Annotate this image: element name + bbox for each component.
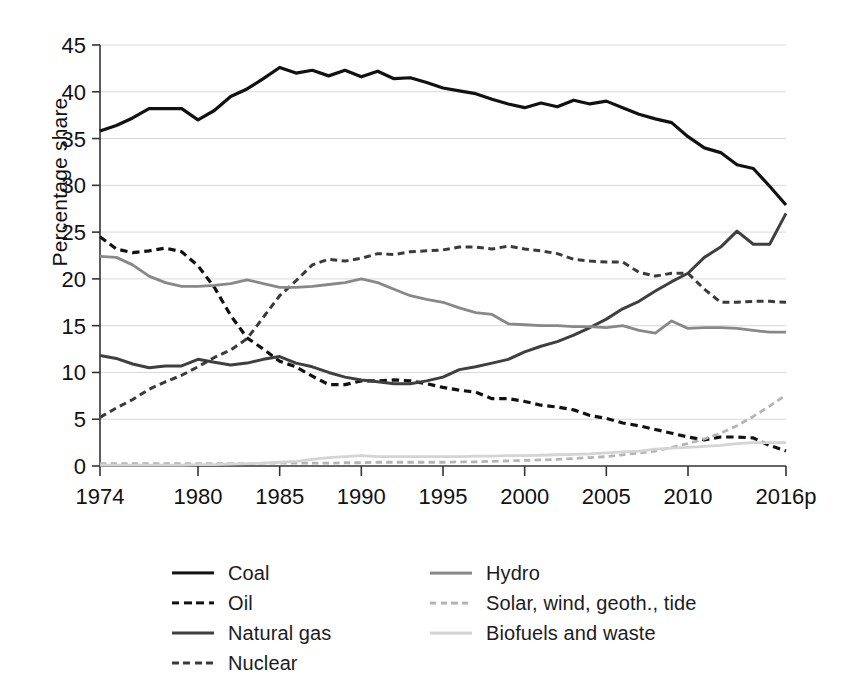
- y-axis-title: Percentage share: [48, 52, 72, 312]
- y-axis-tick-label: 0: [74, 454, 86, 479]
- x-axis-tick-label: 2010: [664, 484, 713, 509]
- legend-item[interactable]: Hydro: [430, 558, 696, 588]
- series-line-coal: [100, 67, 786, 205]
- series-line-solar-wind-geoth-tide: [100, 395, 786, 464]
- legend-item-label: Hydro: [486, 562, 540, 585]
- legend-swatch-dashed-line-icon: [430, 596, 472, 610]
- series-line-natural-gas: [100, 213, 786, 383]
- legend-item[interactable]: Oil: [172, 588, 331, 618]
- legend-item[interactable]: Natural gas: [172, 618, 331, 648]
- legend-item[interactable]: Biofuels and waste: [430, 618, 696, 648]
- chart-legend: CoalOilNatural gasNuclear HydroSolar, wi…: [150, 558, 710, 688]
- legend-swatch-solid-line-icon: [430, 566, 472, 580]
- legend-swatch-dashed-line-icon: [172, 596, 214, 610]
- legend-swatch-solid-line-icon: [172, 566, 214, 580]
- x-axis-tick-label: 1974: [76, 484, 125, 509]
- x-axis-tick-label: 1995: [419, 484, 468, 509]
- legend-item-label: Nuclear: [228, 652, 298, 675]
- legend-column-2: HydroSolar, wind, geoth., tideBiofuels a…: [430, 558, 696, 648]
- x-axis-tick-label: 1980: [174, 484, 223, 509]
- x-axis-tick-label: 2000: [500, 484, 549, 509]
- legend-item[interactable]: Solar, wind, geoth., tide: [430, 588, 696, 618]
- legend-item-label: Solar, wind, geoth., tide: [486, 592, 696, 615]
- x-axis-tick-label: 2016p: [755, 484, 816, 509]
- legend-swatch-solid-line-icon: [430, 626, 472, 640]
- y-axis-tick-label: 5: [74, 407, 86, 432]
- legend-item[interactable]: Nuclear: [172, 648, 331, 678]
- legend-item-label: Natural gas: [228, 622, 331, 645]
- x-axis-tick-label: 1985: [255, 484, 304, 509]
- legend-column-1: CoalOilNatural gasNuclear: [172, 558, 331, 678]
- y-axis-tick-label: 10: [62, 360, 86, 385]
- legend-swatch-solid-line-icon: [172, 626, 214, 640]
- x-axis-tick-label: 1990: [337, 484, 386, 509]
- y-axis-tick-label: 15: [62, 314, 86, 339]
- legend-item[interactable]: Coal: [172, 558, 331, 588]
- chart-figure: 0510152025303540451974198019851990199520…: [0, 0, 859, 696]
- legend-item-label: Coal: [228, 562, 270, 585]
- legend-item-label: Oil: [228, 592, 253, 615]
- x-axis-tick-label: 2005: [582, 484, 631, 509]
- legend-swatch-dashed-line-icon: [172, 656, 214, 670]
- series-line-hydro: [100, 256, 786, 333]
- legend-item-label: Biofuels and waste: [486, 622, 656, 645]
